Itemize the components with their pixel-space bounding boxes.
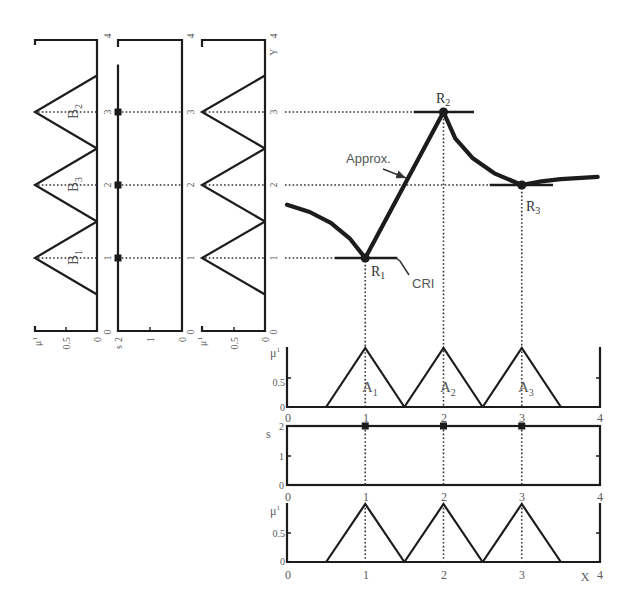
x-tick-label: 1: [363, 568, 369, 582]
x-tick-label: 1: [363, 490, 369, 504]
y-tick-label: 1: [268, 256, 279, 261]
mu-tick-label: 0.5: [61, 337, 72, 350]
x-tick-label: 2: [441, 568, 447, 582]
point-label-r3: R3: [526, 199, 540, 216]
y-tick-label: 1: [185, 256, 196, 261]
panel-y-membership-2-labels: 4 Y 3 2 1 0 μ1 0.5 0: [196, 34, 279, 350]
mu-tick-label: 0.5: [273, 377, 286, 388]
s-axis-label: s: [266, 427, 271, 441]
y-tick-label: 0: [102, 330, 113, 335]
point-marker-r3: [517, 180, 526, 189]
fuzzy-interpolation-figure: 4 3 2 1 0 μ1 0.5 0 B2 B3 B1 4 3 2 1 0 s2…: [0, 0, 637, 608]
point-marker-r2: [439, 107, 448, 116]
y-tick-label: 2: [102, 183, 113, 188]
s-tick-label: 1: [279, 451, 284, 462]
x-tick-label: 1: [363, 411, 369, 425]
y-tick-label: 2: [268, 183, 279, 188]
panel-x-strength-labels: s 2 1 0 0 1 2 3 4: [266, 421, 603, 504]
cri-leader-line: [396, 258, 409, 275]
mu-tick-label: 0: [92, 337, 103, 342]
y-tick-label: 3: [268, 110, 279, 115]
x-tick-label: 4: [597, 568, 603, 582]
y-tick-label: 4: [102, 34, 113, 39]
x-tick-label: 3: [519, 490, 525, 504]
y-tick-label: 4: [268, 34, 279, 39]
s-axis-label: s2: [113, 337, 124, 349]
s-tick-2: 2: [113, 337, 124, 342]
strength-marker: [115, 255, 122, 262]
point-marker-r1: [361, 253, 370, 262]
x-tick-label: 0: [285, 568, 291, 582]
y-tick-label: 0: [268, 330, 279, 335]
set-label-a1: A1: [362, 379, 378, 398]
mu-tick-1: 1: [31, 337, 39, 341]
data-layer: [35, 65, 598, 562]
y-tick-label: 4: [185, 34, 196, 39]
x-tick-label: 2: [441, 411, 447, 425]
mu-axis-label: μ1: [31, 337, 43, 346]
mu-axis-label: μ1: [270, 504, 280, 518]
y-tick-label: 3: [185, 110, 196, 115]
mu-tick-1: 1: [196, 337, 204, 341]
approx-arrow: [383, 169, 406, 178]
y-axis-label: Y: [268, 48, 279, 55]
strength-marker: [115, 109, 122, 116]
s-tick-label: 0: [177, 337, 188, 342]
mu-axis-label: μ1: [270, 346, 280, 360]
strength-marker: [115, 182, 122, 189]
x-tick-label: 0: [285, 411, 291, 425]
panel-b-membership-labels: 4 3 2 1 0 μ1 0.5 0 B2 B3 B1: [31, 34, 113, 350]
mu-axis-label: μ1: [196, 337, 208, 346]
x-tick-label: 0: [285, 490, 291, 504]
x-axis-label: X: [581, 570, 590, 584]
mu-tick-label: 0.5: [273, 528, 286, 539]
x-tick-label: 4: [597, 411, 603, 425]
set-label-a2: A2: [440, 379, 456, 398]
s-tick-label: 0: [279, 480, 284, 491]
y-tick-label: 2: [185, 183, 196, 188]
set-label-a3: A3: [518, 379, 534, 398]
x-tick-label: 4: [597, 490, 603, 504]
point-label-r1: R1: [371, 264, 385, 281]
y-tick-label: 3: [102, 110, 113, 115]
y-tick-label: 1: [102, 256, 113, 261]
y-tick-label: 0: [185, 330, 196, 335]
approx-label: Approx.: [346, 151, 391, 166]
cri-label: CRI: [412, 276, 434, 291]
s-tick-label: 2: [279, 421, 284, 432]
panel-y-strength-labels: 4 3 2 1 0 s2 1 0: [113, 34, 196, 349]
s-tick-label: 1: [145, 337, 156, 342]
x-tick-label: 3: [519, 411, 525, 425]
s-symbol: s: [113, 345, 124, 349]
mu-tick-label: 0.5: [229, 337, 240, 350]
x-tick-label: 2: [441, 490, 447, 504]
point-label-r2: R2: [436, 91, 450, 108]
mu-tick-label: 0: [280, 556, 285, 567]
x-tick-label: 3: [519, 568, 525, 582]
mu-tick-label: 0: [260, 337, 271, 342]
